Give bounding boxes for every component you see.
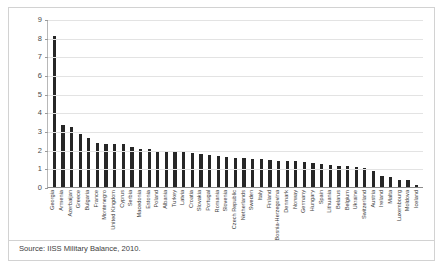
x-axis-label-slot: Ukraine (352, 190, 361, 252)
x-axis-label-slot: Belarus (335, 190, 344, 252)
x-axis-tick-label: United Kingdom (111, 190, 117, 230)
x-axis-tick-label: Turkey (172, 190, 178, 207)
bar (130, 147, 133, 187)
x-axis-label-slot: Albania (162, 190, 171, 252)
x-axis-label-slot: Switzerland (361, 190, 370, 252)
y-axis-tick-label: 0 (38, 184, 42, 192)
x-axis-label-slot: Spain (317, 190, 326, 252)
bar (61, 125, 64, 187)
x-axis-label-slot: Czech Republic (231, 190, 240, 252)
y-axis-tick-label: 6 (38, 72, 42, 80)
x-axis-label-slot: Austria (369, 190, 378, 252)
bar (286, 161, 289, 187)
bar (303, 162, 306, 187)
x-axis-label-slot: Romania (213, 190, 222, 252)
x-axis-label-slot: Serbia (127, 190, 136, 252)
bar-slot (412, 20, 421, 187)
bar-slot (205, 20, 214, 187)
x-axis-label-slot: Netherlands (239, 190, 248, 252)
x-axis-label-slot: Georgia (49, 190, 58, 252)
x-axis-tick-label: Azerbaijan (68, 190, 74, 216)
x-axis-tick-label: Malta (388, 190, 394, 204)
bar-slot (395, 20, 404, 187)
bar-slot (231, 20, 240, 187)
bar (251, 159, 254, 187)
bar-slot (102, 20, 111, 187)
bar (355, 167, 358, 187)
x-axis-tick-label: Netherlands (241, 190, 247, 220)
bar-slot (136, 20, 145, 187)
x-axis-label-slot: Azerbaijan (66, 190, 75, 252)
bar-slot (188, 20, 197, 187)
bar-slot (326, 20, 335, 187)
x-axis-label-slot: Croatia (188, 190, 197, 252)
y-axis-tick-mark (45, 132, 48, 133)
bar-slot (240, 20, 249, 187)
bar (70, 127, 73, 187)
bar-slot (223, 20, 232, 187)
bar-slot (335, 20, 344, 187)
bar (380, 176, 383, 187)
x-axis-label-slot: Macedonia (136, 190, 145, 252)
bar-slot (67, 20, 76, 187)
x-axis-tick-label: Greece (77, 190, 83, 208)
x-axis-tick-label: Switzerland (362, 190, 368, 219)
x-axis-tick-label: Bosnia-Herzegovina (276, 190, 282, 240)
y-axis-tick-label: 8 (38, 35, 42, 43)
x-axis-tick-label: Hungary (310, 190, 316, 211)
x-axis-tick-label: Belgium (345, 190, 351, 210)
y-axis-tick-mark (45, 57, 48, 58)
x-axis-label-slot: Montenegro (101, 190, 110, 252)
x-axis-tick-label: Moldova (405, 190, 411, 211)
bar-slot (309, 20, 318, 187)
bar (242, 158, 245, 187)
x-axis-tick-label: Lithuania (328, 190, 334, 213)
bar-slot (369, 20, 378, 187)
bar (398, 180, 401, 187)
x-axis-tick-label: Romania (215, 190, 221, 212)
y-axis-tick-mark (45, 76, 48, 77)
x-axis-label-slot: France (92, 190, 101, 252)
bar-slot (93, 20, 102, 187)
x-axis-label-slot: Hungary (309, 190, 318, 252)
bar (53, 36, 56, 187)
y-axis-tick-label: 4 (38, 110, 42, 118)
y-axis-tick-label: 3 (38, 128, 42, 136)
bar-slot (76, 20, 85, 187)
bar (372, 171, 375, 187)
bar-slot (300, 20, 309, 187)
x-axis-tick-label: Armenia (59, 190, 65, 211)
x-axis-label-slot: Slovenia (222, 190, 231, 252)
y-axis-tick-mark (45, 95, 48, 96)
bar (329, 165, 332, 187)
bar-slot (274, 20, 283, 187)
x-axis-label-slot: Latvia (179, 190, 188, 252)
bar-slot (197, 20, 206, 187)
source-divider (9, 240, 434, 241)
x-axis-tick-label: France (94, 190, 100, 207)
x-axis-tick-label: Iceland (414, 190, 420, 208)
gridline (48, 151, 423, 152)
plot-area: 9876543210 (31, 20, 423, 188)
bar (217, 156, 220, 187)
bar-slot (248, 20, 257, 187)
bar-slot (145, 20, 154, 187)
bar (406, 180, 409, 187)
x-axis-label-slot: Portugal (205, 190, 214, 252)
bar-slot (50, 20, 59, 187)
bar (311, 163, 314, 187)
x-axis-label-slot: Bosnia-Herzegovina (274, 190, 283, 252)
x-axis-label-slot: Estonia (144, 190, 153, 252)
bar (294, 161, 297, 187)
x-axis-tick-label: Norway (293, 190, 299, 209)
x-axis-tick-label: Bulgaria (85, 190, 91, 211)
y-axis-tick-mark (45, 151, 48, 152)
x-axis-label-slot: Turkey (170, 190, 179, 252)
x-axis-label-slot: Belgium (343, 190, 352, 252)
gridline (48, 57, 423, 58)
x-axis-tick-label: Germany (302, 190, 308, 213)
bar-slot (404, 20, 413, 187)
gridline (48, 76, 423, 77)
x-axis-label-slot: Malta (387, 190, 396, 252)
x-axis-label-slot: Lithuania (326, 190, 335, 252)
